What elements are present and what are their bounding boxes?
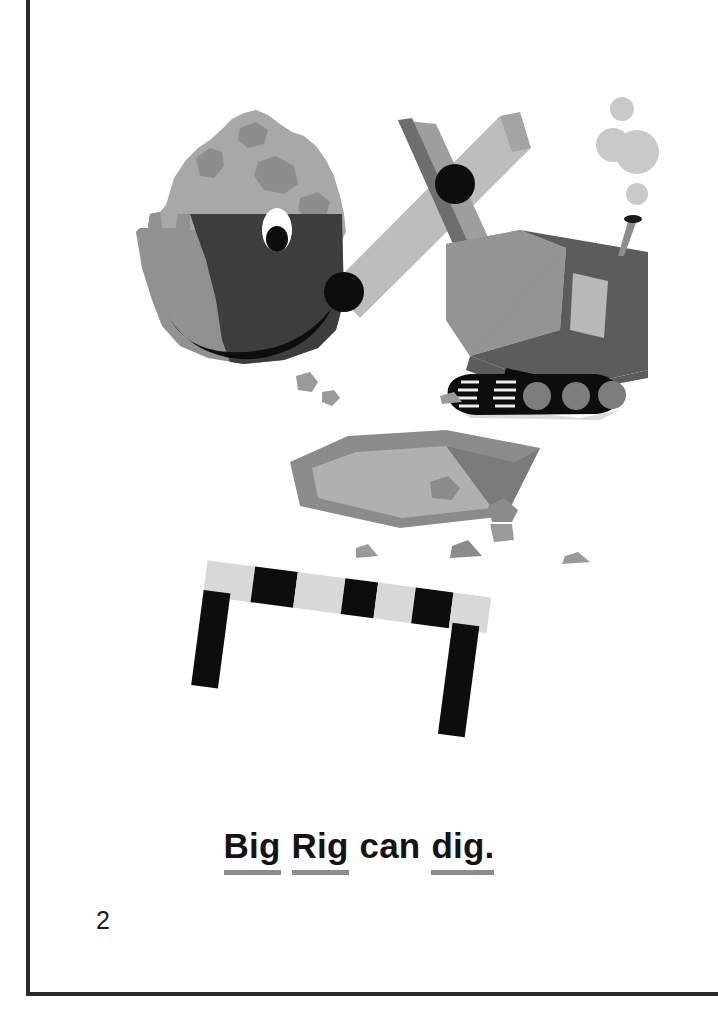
bucket-eye [262, 208, 292, 252]
construction-barricade [191, 560, 491, 737]
page-number: 2 [96, 906, 110, 935]
illustration [0, 0, 718, 800]
arm-pivot [435, 164, 475, 204]
book-page: BigRigcandig. 2 [0, 0, 718, 1016]
excavator-body [446, 230, 648, 398]
word-big: Big [224, 826, 281, 868]
cab-window [570, 273, 608, 338]
word-dig: dig. [431, 826, 494, 868]
word-can: can [360, 826, 421, 868]
word-rig: Rig [292, 826, 349, 868]
smoke-puffs [596, 97, 659, 205]
excavator-track [448, 368, 626, 420]
sentence-line: BigRigcandig. [0, 826, 718, 868]
page-border-bottom [26, 992, 718, 996]
excavator-bucket [136, 212, 344, 364]
bucket-pivot [324, 272, 364, 312]
